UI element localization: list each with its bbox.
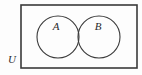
universal-set-label: U — [8, 53, 17, 65]
venn-diagram-figure: A B U — [0, 0, 142, 75]
set-b-label: B — [95, 20, 102, 32]
set-a-label: A — [52, 20, 60, 32]
venn-diagram-canvas: A B U — [0, 0, 142, 75]
